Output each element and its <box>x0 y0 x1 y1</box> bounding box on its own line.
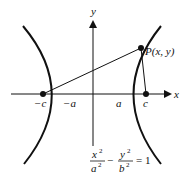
svg-text:b: b <box>119 162 125 174</box>
vertex-right-label: a <box>116 97 122 109</box>
y-axis-label: y <box>90 5 96 17</box>
focus-left-label: −c <box>34 97 46 109</box>
point-p-dot <box>138 45 144 51</box>
hyperbola-diagram: x y P(x, y) −c −a a c x 2 a 2 − y 2 b 2 … <box>0 0 188 189</box>
focus-right-label: c <box>143 97 148 109</box>
x-axis-label: x <box>173 88 179 100</box>
svg-text:a: a <box>91 162 97 174</box>
svg-text:2: 2 <box>98 161 102 169</box>
hyperbola-equation: x 2 a 2 − y 2 b 2 = 1 <box>90 147 150 174</box>
svg-text:2: 2 <box>99 147 103 155</box>
focal-line-left <box>43 48 141 94</box>
svg-text:x: x <box>91 148 97 160</box>
svg-text:= 1: = 1 <box>136 154 150 166</box>
svg-text:2: 2 <box>127 147 131 155</box>
svg-text:2: 2 <box>126 161 130 169</box>
svg-text:−: − <box>107 154 113 166</box>
hyperbola-left-branch <box>23 26 52 164</box>
point-p-label: P(x, y) <box>144 45 175 58</box>
svg-text:y: y <box>119 148 125 160</box>
vertex-left-label: −a <box>63 97 76 109</box>
